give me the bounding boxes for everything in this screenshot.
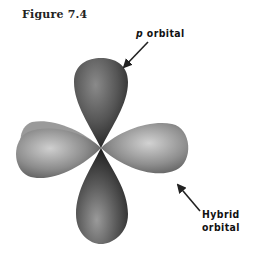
hybrid-orbital-arrow xyxy=(178,185,200,211)
hybrid-lobe-left xyxy=(16,129,101,179)
hybrid-lobe-right xyxy=(101,123,188,173)
orbital-diagram xyxy=(0,0,279,254)
p-orbital-lobe-bottom xyxy=(76,148,128,244)
p-orbital-arrow xyxy=(124,42,148,67)
